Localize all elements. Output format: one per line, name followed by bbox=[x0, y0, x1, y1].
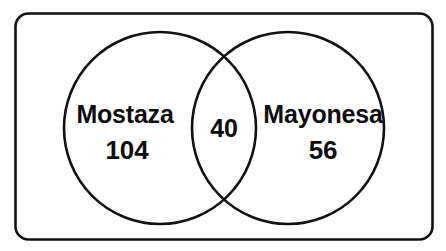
venn-diagram: Mostaza 104 40 Mayonesa 56 bbox=[0, 0, 446, 251]
intersection-count: 40 bbox=[210, 116, 237, 141]
set-count-right: 56 bbox=[309, 137, 338, 163]
set-count-left: 104 bbox=[106, 137, 149, 163]
set-label-left: Mostaza bbox=[76, 102, 173, 127]
set-label-right: Mayonesa bbox=[263, 102, 382, 127]
